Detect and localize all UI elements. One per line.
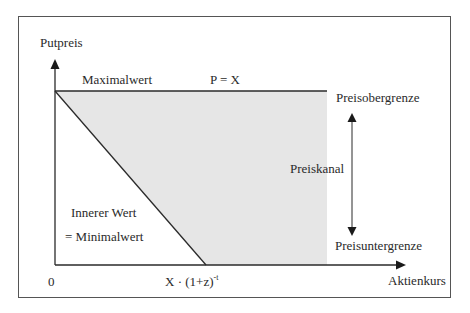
- max-value-formula: P = X: [210, 73, 240, 86]
- x-axis-label: Aktienkurs: [388, 274, 446, 287]
- x-axis-arrow-icon: [396, 261, 406, 270]
- origin-label: 0: [48, 275, 55, 288]
- x-intercept-label: X · (1+z)-t: [165, 275, 218, 288]
- intrinsic-value-label: Innerer Wert: [71, 206, 136, 219]
- min-value-label: = Minimalwert: [65, 230, 143, 243]
- max-value-label: Maximalwert: [82, 73, 152, 86]
- x-intercept-base: X · (1+z): [165, 274, 213, 289]
- upper-bound-label: Preisobergrenze: [336, 91, 420, 104]
- lower-bound-label: Preisuntergrenze: [335, 239, 422, 252]
- price-channel-label: Preiskanal: [290, 162, 344, 175]
- y-axis-arrow-icon: [51, 59, 60, 69]
- x-intercept-exponent: -t: [213, 273, 218, 282]
- price-channel-arrow-up-icon: [348, 113, 357, 122]
- price-channel-arrow-down-icon: [348, 227, 357, 236]
- y-axis-label: Putpreis: [40, 36, 83, 49]
